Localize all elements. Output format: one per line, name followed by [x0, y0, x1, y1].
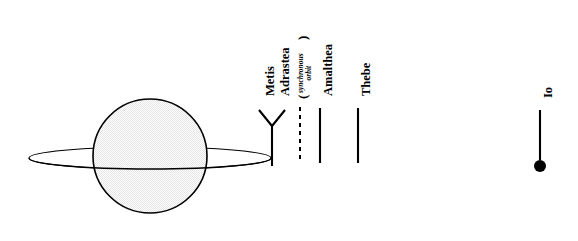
io-body-dot	[534, 160, 546, 172]
planet-jupiter	[93, 99, 207, 215]
jupiter-system-scene	[0, 0, 578, 241]
marker-io	[534, 110, 546, 172]
marker-metis-adrastea	[259, 110, 285, 166]
diagram-canvas: Metis Adrastea ( synchronous orbit ) Ama…	[0, 0, 578, 241]
